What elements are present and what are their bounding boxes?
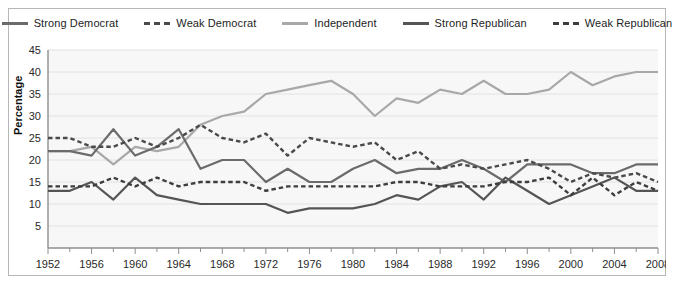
x-tick-label: 1992 <box>471 258 495 270</box>
y-tick-label: 5 <box>35 220 41 232</box>
legend-label: Weak Republican <box>585 17 673 29</box>
y-tick-label: 20 <box>29 154 41 166</box>
y-tick-label: 40 <box>29 66 41 78</box>
line-chart-svg: 5101520253035404519521956196019641968197… <box>8 38 666 276</box>
x-tick-label: 2008 <box>646 258 666 270</box>
y-tick-label: 10 <box>29 198 41 210</box>
plot-area: Percentage 51015202530354045195219561960… <box>8 38 666 276</box>
y-tick-label: 30 <box>29 110 41 122</box>
legend-item-weak-republican[interactable]: Weak Republican <box>553 17 673 29</box>
x-tick-label: 1996 <box>515 258 539 270</box>
x-tick-label: 1960 <box>123 258 147 270</box>
y-tick-label: 25 <box>29 132 41 144</box>
y-tick-label: 45 <box>29 44 41 56</box>
plot-background <box>48 50 658 248</box>
chart-legend: Strong DemocratWeak DemocratIndependentS… <box>8 8 666 38</box>
legend-item-strong-republican[interactable]: Strong Republican <box>403 17 527 29</box>
x-tick-label: 1968 <box>210 258 234 270</box>
legend-swatch-icon <box>282 22 308 25</box>
y-tick-label: 15 <box>29 176 41 188</box>
x-tick-label: 2000 <box>559 258 583 270</box>
x-tick-label: 1980 <box>341 258 365 270</box>
legend-label: Strong Democrat <box>34 17 119 29</box>
legend-label: Strong Republican <box>435 17 527 29</box>
legend-swatch-icon <box>2 22 28 25</box>
x-tick-label: 1956 <box>79 258 103 270</box>
y-tick-label: 35 <box>29 88 41 100</box>
legend-item-independent[interactable]: Independent <box>282 17 376 29</box>
x-tick-label: 1984 <box>384 258 408 270</box>
legend-swatch-icon <box>553 22 579 25</box>
legend-label: Independent <box>314 17 376 29</box>
x-tick-label: 2004 <box>602 258 626 270</box>
legend-label: Weak Democrat <box>176 17 256 29</box>
legend-item-strong-democrat[interactable]: Strong Democrat <box>2 17 119 29</box>
x-tick-label: 1972 <box>254 258 278 270</box>
legend-item-weak-democrat[interactable]: Weak Democrat <box>144 17 256 29</box>
legend-swatch-icon <box>403 22 429 25</box>
legend-swatch-icon <box>144 22 170 25</box>
x-tick-label: 1964 <box>166 258 190 270</box>
x-tick-label: 1988 <box>428 258 452 270</box>
chart-figure: Strong DemocratWeak DemocratIndependentS… <box>0 0 676 286</box>
x-tick-label: 1952 <box>36 258 60 270</box>
x-tick-label: 1976 <box>297 258 321 270</box>
